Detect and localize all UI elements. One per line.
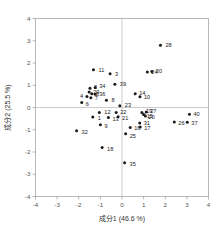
point-marker [98,111,101,114]
data-point: 39 [113,81,126,87]
point-label: 26 [178,120,184,126]
point-label: 4 [80,93,83,99]
x-tick-label: 1 [142,201,146,208]
data-point: 32 [75,129,88,135]
x-tick-label: 0 [120,201,124,208]
point-marker [75,129,78,132]
point-marker [80,101,83,104]
x-tick-label: 4 [207,201,211,208]
point-marker [91,116,94,119]
point-label: 7 [95,95,98,101]
point-marker [124,132,127,135]
data-point: 4 [80,93,89,99]
point-label: 9 [104,123,107,129]
point-label: 39 [120,81,126,87]
point-label: 28 [165,42,171,48]
point-marker [113,83,116,86]
point-marker [159,44,162,47]
y-tick-label: -1 [25,126,31,133]
data-point: 11 [92,67,104,73]
point-label: 23 [125,102,131,108]
point-label: 17 [144,125,150,131]
point-marker [117,115,120,118]
y-tick-label: 4 [27,15,31,22]
data-point: 8 [105,97,115,103]
point-marker [92,68,95,71]
y-tick-label: 3 [27,37,31,44]
data-point: 23 [118,102,131,108]
point-marker [85,95,88,98]
point-label: 34 [99,83,105,89]
point-label: 30 [156,68,162,74]
point-label: 18 [107,146,113,152]
data-point: 9 [99,123,108,129]
point-label: 8 [111,97,114,103]
point-marker [146,70,149,73]
point-label: 40 [193,111,199,117]
point-marker [90,92,93,95]
data-point: 7 [89,95,98,101]
point-marker [109,72,112,75]
point-marker [88,87,91,90]
data-point: 25 [124,132,136,139]
point-label: 3 [115,71,118,77]
data-points-group: 1132824303923429536476814102312221132119… [75,42,200,166]
plot-container: -4-3-2-101234-4-3-2-101234 1132824303923… [0,0,219,230]
point-label: 37 [191,120,197,126]
point-marker [115,111,118,114]
x-tick-label: -1 [98,201,104,208]
point-label: 25 [130,133,136,139]
point-label: 11 [98,67,104,73]
data-point: 1 [91,115,101,121]
point-label: 32 [82,129,88,135]
data-point: 16 [129,125,141,131]
point-marker [118,104,121,107]
point-marker [134,92,137,95]
point-label: 35 [130,161,136,167]
y-tick-label: -3 [25,170,31,177]
data-point: 37 [186,120,198,126]
data-point: 20 [144,114,155,120]
point-label: 6 [86,101,89,107]
point-marker [88,90,91,93]
point-marker [129,126,132,129]
data-point: 40 [188,111,200,117]
data-point: 3 [109,71,119,77]
y-tick-label: -4 [25,193,31,200]
axes-group: -4-3-2-101234-4-3-2-101234 [25,15,211,208]
x-axis-title: 成分1 (46.6 %) [99,214,145,223]
y-tick-label: -2 [25,148,31,155]
data-point: 35 [123,161,136,167]
point-label: 16 [134,125,140,131]
scatter-plot-figure: -4-3-2-101234-4-3-2-101234 1132824303923… [0,0,219,230]
point-label: 36 [99,91,105,97]
point-marker [105,99,108,102]
point-marker [101,146,104,149]
point-marker [144,114,147,117]
data-point: 28 [159,42,172,48]
y-tick-label: 1 [27,81,31,88]
point-marker [89,96,92,99]
point-marker [99,123,102,126]
data-point: 6 [80,101,89,107]
point-label: 10 [144,94,150,100]
point-marker [123,161,126,164]
point-marker [107,116,110,119]
x-tick-label: -4 [33,201,39,208]
point-label: 20 [148,114,154,120]
point-marker [188,113,191,116]
x-tick-label: -2 [76,201,82,208]
x-tick-label: 3 [185,201,189,208]
point-marker [150,70,153,73]
point-label: 1 [98,115,101,121]
point-marker [173,120,176,123]
x-tick-label: 2 [164,201,168,208]
chart-canvas: -4-3-2-101234-4-3-2-101234 1132824303923… [0,0,219,230]
point-marker [186,121,189,124]
y-axis-title: 成分2 (25.5 %) [3,84,12,130]
data-point: 26 [173,120,185,126]
point-label: 12 [104,109,110,115]
y-tick-label: 2 [27,59,31,66]
point-marker [138,95,141,98]
y-tick-label: 0 [27,104,31,111]
